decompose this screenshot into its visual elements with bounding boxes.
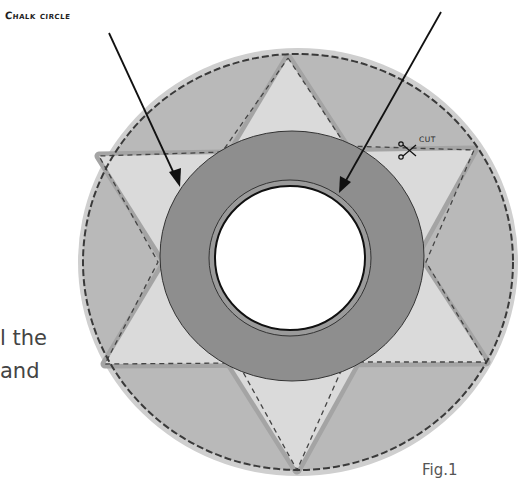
figure-caption: Fig.1 bbox=[422, 461, 458, 479]
chalk-circle-label: Chalk circle bbox=[5, 10, 71, 21]
body-text-line-1: l the bbox=[0, 322, 47, 355]
center-hole bbox=[215, 186, 365, 330]
body-text-line-2: and bbox=[0, 355, 47, 388]
cut-label: CUT bbox=[419, 135, 436, 144]
body-text-fragment: l the and bbox=[0, 322, 47, 388]
figure-canvas bbox=[0, 0, 524, 498]
chalk-circle-diagram bbox=[0, 0, 524, 498]
